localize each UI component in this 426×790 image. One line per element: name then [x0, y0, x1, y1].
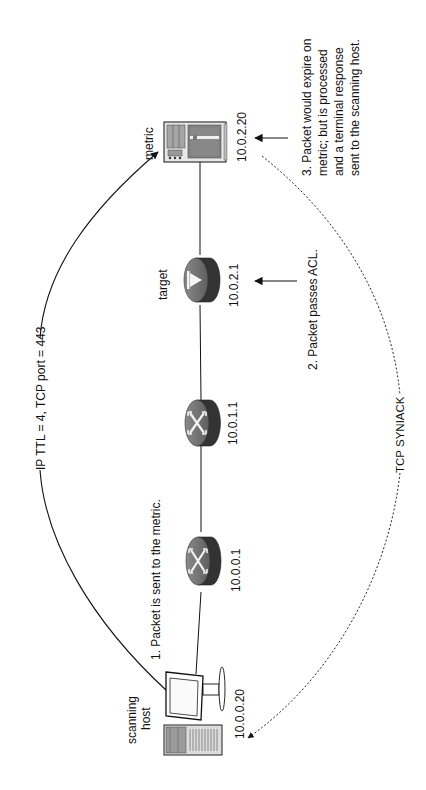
server-icon — [164, 122, 227, 162]
workstation-icon — [164, 667, 225, 755]
metric-server[interactable]: metric 10.0.2.20 — [142, 112, 249, 162]
return-flow-arc: TCP SYNIACK — [248, 156, 406, 738]
firewall-router-icon — [184, 258, 220, 302]
scanning-host-ip: 10.0.0.20 — [233, 689, 247, 739]
step2-text: 2. Packet passes ACL. — [306, 249, 320, 370]
router-icon — [186, 537, 221, 585]
step3-line2: metric; but is processed — [316, 49, 330, 176]
outbound-flow-arc: IP TTL = 4, TCP port = 443 — [34, 152, 167, 691]
router-2-ip: 10.0.1.1 — [226, 401, 240, 445]
target-ip: 10.0.2.1 — [227, 263, 241, 307]
step2-annotation: 2. Packet passes ACL. — [255, 249, 320, 370]
scanning-host-label-line2: host — [139, 707, 153, 730]
target-label: target — [156, 269, 170, 300]
router-1-ip: 10.0.0.1 — [229, 548, 243, 592]
step3-line4: sent to the scanning host. — [348, 39, 362, 176]
scanning-host[interactable]: scanning host 10.0.0.20 — [125, 667, 247, 755]
outbound-flow-label: IP TTL = 4, TCP port = 443 — [34, 326, 48, 470]
router-icon — [185, 400, 220, 446]
scanning-host-label-line1: scanning — [125, 696, 139, 744]
target-router[interactable]: target 10.0.2.1 — [156, 258, 241, 307]
metric-label: metric — [142, 127, 156, 160]
metric-ip: 10.0.2.20 — [235, 112, 249, 162]
return-flow-label: TCP SYNIACK — [394, 396, 406, 473]
step3-annotation: 3. Packet would expire on metric; but is… — [255, 39, 362, 176]
step3-line1: 3. Packet would expire on — [300, 39, 314, 176]
step3-line3: and a terminal response — [332, 47, 346, 176]
router-2[interactable]: 10.0.1.1 — [185, 400, 240, 446]
step1-annotation: 1. Packet is sent to the metric. — [149, 499, 163, 660]
network-diagram: IP TTL = 4, TCP port = 443 TCP SYNIACK m… — [0, 0, 426, 790]
router-1[interactable]: 10.0.0.1 — [186, 537, 243, 592]
